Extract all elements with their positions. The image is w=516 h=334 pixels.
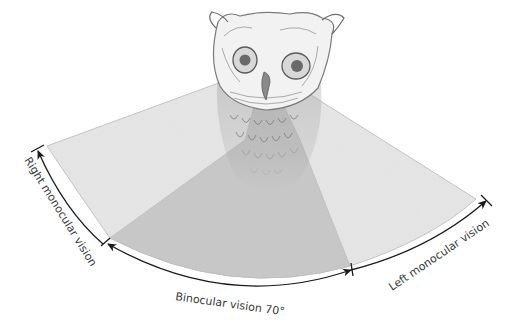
label-binocular: Binocular vision 70°: [175, 290, 286, 318]
owl-vision-diagram: Right monocular vision Binocular vision …: [0, 0, 516, 334]
